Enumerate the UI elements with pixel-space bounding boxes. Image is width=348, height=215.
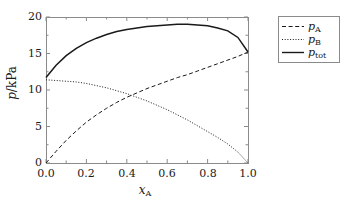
x-tick-0-6: 0.6 bbox=[147, 167, 187, 180]
legend-dashed-line-sample bbox=[282, 21, 304, 32]
y-tick-5: 5 bbox=[22, 121, 42, 132]
legend-label-pb: pB bbox=[304, 34, 321, 46]
y-axis-title: p/kPa bbox=[5, 53, 19, 113]
y-tick-20: 20 bbox=[22, 11, 42, 22]
legend-item-pa: pA bbox=[282, 20, 335, 33]
curve-p_A bbox=[46, 52, 248, 163]
legend-pb-symbol: p bbox=[308, 33, 315, 46]
legend: pA pB ptot bbox=[278, 16, 340, 63]
vapor-pressure-chart: 20 15 10 5 0 0.0 0.2 0.4 0.6 0.8 1.0 p/k… bbox=[0, 0, 348, 215]
x-axis-title: xA bbox=[110, 183, 180, 199]
legend-pa-subscript: A bbox=[315, 25, 321, 34]
y-tick-10: 10 bbox=[22, 84, 42, 95]
y-axis-title-symbol: p bbox=[5, 92, 19, 100]
legend-dotted-line-sample bbox=[282, 34, 304, 45]
legend-pa-symbol: p bbox=[308, 20, 315, 33]
legend-solid-line-sample bbox=[282, 47, 304, 58]
legend-label-pa: pA bbox=[304, 21, 321, 33]
curve-p_B bbox=[46, 80, 248, 163]
y-axis-title-unit: /kPa bbox=[5, 66, 19, 92]
legend-label-ptot: ptot bbox=[304, 47, 326, 59]
x-tick-0-2: 0.2 bbox=[66, 167, 106, 180]
x-tick-0-8: 0.8 bbox=[188, 167, 228, 180]
x-tick-0-4: 0.4 bbox=[107, 167, 147, 180]
x-tick-1-0: 1.0 bbox=[228, 167, 268, 180]
x-tick-0: 0.0 bbox=[26, 167, 66, 180]
legend-item-pb: pB bbox=[282, 33, 335, 46]
legend-item-ptot: ptot bbox=[282, 46, 335, 59]
x-axis-title-symbol: x bbox=[139, 183, 146, 197]
curve-p_tot bbox=[46, 24, 248, 77]
legend-pb-subscript: B bbox=[315, 38, 321, 47]
x-axis-title-subscript: A bbox=[146, 189, 152, 198]
legend-ptot-subscript: tot bbox=[315, 51, 326, 60]
y-tick-15: 15 bbox=[22, 48, 42, 59]
legend-ptot-symbol: p bbox=[308, 46, 315, 59]
